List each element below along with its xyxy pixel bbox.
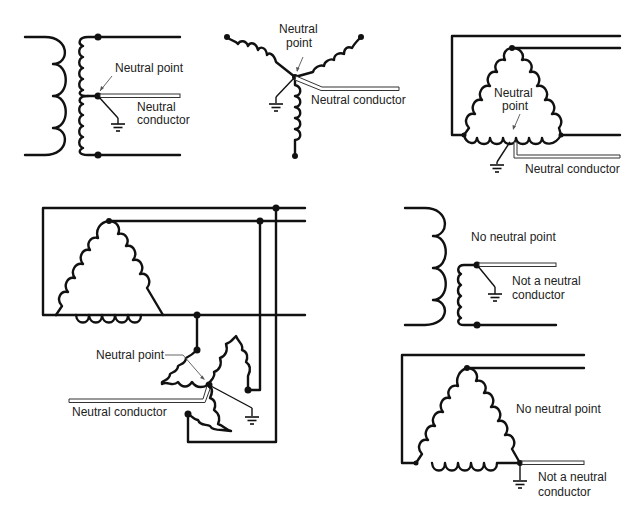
label-not-neutral-1: Not a neutral [538,470,607,484]
neutral-conductor-diagram: Neutral point Neutral conductor Neutral … [0,0,640,517]
label-not-neutral-2: conductor [512,288,565,302]
label-not-neutral-2: conductor [538,485,591,499]
ground-icon [245,417,259,424]
non-neutral-conductor [479,263,556,267]
label-no-neutral-point: No neutral point [516,402,601,416]
delta-winding [416,368,520,471]
ground-icon [490,165,504,172]
primary-winding [405,208,446,325]
label-neutral-conductor: Neutral conductor [525,162,620,176]
label-neutral-point-2: point [502,99,529,113]
ground-icon [488,294,502,301]
zigzag-winding-a [162,350,208,387]
neutral-conductor [295,76,399,91]
non-neutral-conductor [522,461,584,465]
neutral-conductor [69,386,210,403]
panel-delta-center-tapped: Neutral point Neutral conductor [452,36,620,176]
label-neutral-point-1: Neutral [279,22,318,36]
wye-winding-c [295,77,300,155]
neutral-conductor [100,94,180,98]
wye-winding-a [227,37,295,77]
label-neutral-conductor: Neutral conductor [311,93,406,107]
panel-delta-corner-grounded: No neutral point Not a neutral conductor [402,355,607,499]
label-neutral-point-2: point [286,36,313,50]
panel-wye-connection: Neutral point Neutral conductor [224,22,406,159]
delta-winding [56,221,163,323]
label-neutral-point: Neutral point [96,348,165,362]
label-no-neutral-point: No neutral point [471,230,556,244]
panel-single-phase-corner: No neutral point Not a neutral conductor [405,208,581,329]
zigzag-winding-b [208,336,250,390]
zigzag-winding-c [188,385,231,431]
ground-icon [111,124,125,131]
label-neutral-point: Neutral point [115,61,184,75]
panel-single-phase-center-tap: Neutral point Neutral conductor [25,34,190,159]
label-not-neutral-1: Not a neutral [512,274,581,288]
ground-icon [269,104,283,111]
ground-icon [513,481,527,488]
label-neutral-point-1: Neutral [494,86,533,100]
neutral-conductor [514,142,620,158]
label-neutral-conductor-2: conductor [137,113,190,127]
label-neutral-conductor: Neutral conductor [72,405,167,419]
label-neutral-conductor-1: Neutral [137,100,176,114]
panel-delta-with-zigzag: Neutral point Neutral conductor [43,205,305,443]
primary-winding [25,37,66,155]
